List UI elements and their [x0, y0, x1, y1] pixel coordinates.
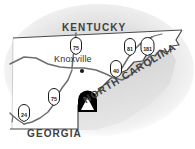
shield-label-i-75-north: 75: [71, 45, 82, 51]
city-label-knoxville: Knoxville: [54, 54, 92, 64]
shield-label-i-81: 81: [125, 46, 136, 52]
shield-label-i-24: 24: [19, 112, 30, 118]
state-label-kentucky: KENTUCKY: [62, 22, 126, 33]
state-label-georgia: GEORGIA: [27, 128, 82, 139]
shield-label-i-75-south: 75: [49, 96, 60, 102]
shield-label-i-181: 181: [141, 46, 154, 52]
shield-label-i-40: 40: [111, 68, 122, 74]
city-dot-icon: [80, 69, 84, 73]
locator-map: KENTUCKY NORTH CAROLINA GEORGIA Knoxvill…: [0, 0, 195, 149]
